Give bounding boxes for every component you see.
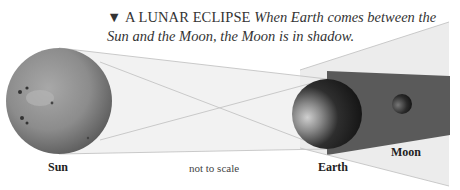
earth-label: Earth bbox=[318, 160, 348, 175]
scale-note: not to scale bbox=[189, 162, 239, 174]
earth-body bbox=[292, 79, 362, 149]
moon-label: Moon bbox=[391, 145, 421, 160]
sun-body bbox=[6, 48, 112, 154]
caption-marker-icon: ▼ bbox=[107, 9, 121, 25]
diagram-caption: ▼ A LUNAR ECLIPSE When Earth comes betwe… bbox=[107, 8, 457, 46]
sun-label: Sun bbox=[48, 160, 68, 175]
moon-body bbox=[392, 94, 412, 114]
caption-heading: A LUNAR ECLIPSE bbox=[125, 9, 251, 25]
